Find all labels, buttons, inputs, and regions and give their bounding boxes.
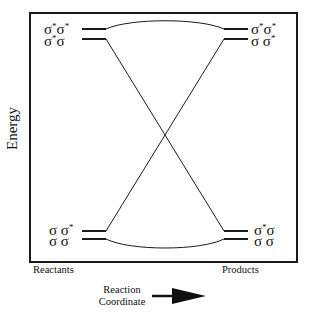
products-label: Products bbox=[222, 264, 259, 275]
label-sup: * bbox=[65, 21, 70, 31]
label-sup: * bbox=[272, 21, 277, 31]
label-part: σ bbox=[49, 233, 57, 249]
label-part: σ bbox=[251, 33, 259, 49]
correlation-curve-top bbox=[106, 21, 224, 29]
product-label-sigma-sigma-star: σ σ* bbox=[251, 35, 275, 47]
label-part: σ bbox=[254, 233, 262, 249]
label-part: σ bbox=[266, 233, 274, 249]
label-part: σ bbox=[263, 33, 271, 49]
orbital-correlation-diagram: σ*σ* σ*σ σ σ* σ σ σ*σ* σ σ* σ*σ σ σ Ener… bbox=[0, 0, 310, 316]
arrow-right-icon bbox=[152, 288, 206, 304]
label-part: σ bbox=[44, 33, 52, 49]
reaction-coordinate-line1: Reaction bbox=[96, 284, 148, 296]
reaction-coordinate-line2: Coordinate bbox=[96, 296, 148, 308]
label-sup: * bbox=[69, 222, 74, 232]
label-part: σ bbox=[57, 33, 65, 49]
reactants-label: Reactants bbox=[33, 264, 74, 275]
product-label-sigma-sigma: σ σ bbox=[254, 235, 274, 247]
reactant-label-sigma-sigma: σ σ bbox=[49, 235, 69, 247]
y-axis-label: Energy bbox=[4, 107, 21, 150]
reactant-label-sigma-star-sigma: σ*σ bbox=[44, 35, 65, 47]
label-sup: * bbox=[271, 33, 276, 43]
correlation-curve-bottom bbox=[106, 239, 224, 248]
label-part: σ bbox=[61, 233, 69, 249]
reaction-coordinate-label: Reaction Coordinate bbox=[96, 284, 148, 308]
